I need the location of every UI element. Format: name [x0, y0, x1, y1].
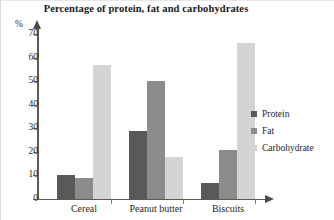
bar — [57, 175, 75, 199]
y-axis-tick-label: 40 — [12, 100, 38, 110]
chart-title: Percentage of protein, fat and carbohydr… — [1, 3, 291, 14]
chart-legend: ProteinFatCarbohydrate — [251, 109, 314, 160]
legend-swatch-icon — [251, 145, 257, 151]
legend-label: Carbohydrate — [262, 143, 314, 153]
legend-item: Protein — [251, 109, 314, 119]
bar — [165, 157, 183, 199]
legend-item: Carbohydrate — [251, 143, 314, 153]
bar — [147, 81, 165, 199]
bar-group — [129, 34, 183, 199]
x-axis-arrow-icon — [265, 195, 274, 203]
y-axis-tick-label: 10 — [12, 170, 38, 180]
legend-item: Fat — [251, 126, 314, 136]
bar-group — [201, 34, 255, 199]
y-axis-tick-label: 20 — [12, 147, 38, 157]
y-axis-tick-label: 60 — [12, 53, 38, 63]
bar — [201, 183, 219, 200]
legend-label: Fat — [262, 126, 274, 136]
legend-label: Protein — [262, 109, 289, 119]
y-axis-tick-label: 70 — [12, 29, 38, 39]
x-axis-category-label: Biscuits — [181, 203, 275, 214]
legend-swatch-icon — [251, 111, 257, 117]
bar — [75, 178, 93, 199]
y-axis-unit-label: % — [15, 19, 23, 29]
bar-chart-figure: Percentage of protein, fat and carbohydr… — [0, 0, 334, 220]
y-axis-tick-label: 0 — [12, 194, 38, 204]
y-axis-tick-label: 50 — [12, 76, 38, 86]
bar — [219, 150, 237, 200]
bar — [129, 131, 147, 199]
legend-swatch-icon — [251, 128, 257, 134]
bar-group — [57, 34, 111, 199]
y-axis-tick-label: 30 — [12, 123, 38, 133]
bar — [93, 65, 111, 199]
